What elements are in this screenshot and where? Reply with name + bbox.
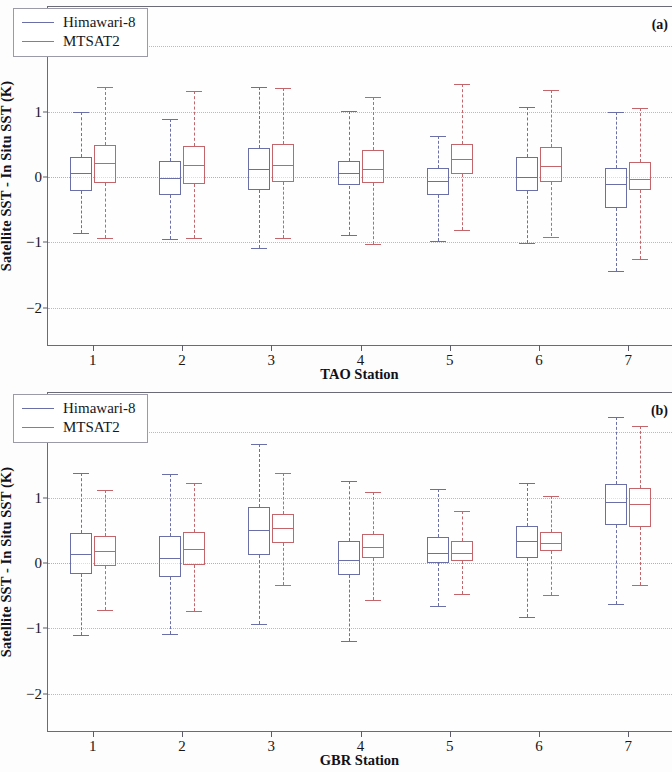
whisker-cap-upper: [519, 107, 535, 108]
box-plot-mtsat2-station-5: [451, 393, 473, 731]
whisker-cap-lower: [97, 610, 113, 611]
whisker-cap-upper: [73, 473, 89, 474]
whisker-lower: [283, 182, 284, 238]
legend-b: Himawari-8 MTSAT2: [13, 394, 148, 443]
y-tick-mark--2: [43, 693, 48, 694]
box-plot-himawari-8-station-1: [70, 393, 92, 731]
x-tick-mark-3: [271, 731, 272, 737]
median-line: [159, 558, 181, 559]
y-tick-mark--1: [43, 242, 48, 243]
legend-item-mtsat2-a: MTSAT2: [22, 32, 135, 51]
whisker-cap-upper: [275, 473, 291, 474]
whisker-lower: [194, 565, 195, 611]
x-tick-mark-4: [361, 731, 362, 737]
y-tick-label--1: −1: [26, 234, 42, 251]
box-plot-mtsat2-station-4: [362, 393, 384, 731]
whisker-upper: [194, 91, 195, 146]
box-plot-himawari-8-station-2: [159, 7, 181, 345]
box-iqr: [629, 162, 651, 190]
whisker-lower: [462, 561, 463, 594]
box-plot-mtsat2-station-5: [451, 7, 473, 345]
median-line: [362, 547, 384, 548]
gridline-y-0: [48, 563, 672, 564]
box-iqr: [362, 150, 384, 183]
box-plot-himawari-8-station-3: [248, 393, 270, 731]
box-iqr: [159, 536, 181, 577]
whisker-cap-upper: [186, 91, 202, 92]
x-axis-title-b: GBR Station: [47, 752, 672, 769]
box-iqr: [451, 541, 473, 561]
whisker-upper: [462, 511, 463, 540]
whisker-lower: [527, 191, 528, 243]
whisker-cap-lower: [454, 230, 470, 231]
box-iqr: [540, 532, 562, 551]
whisker-lower: [551, 551, 552, 595]
panel-b: Satellite SST - In Situ SST (K) (b) 210−…: [0, 386, 672, 772]
whisker-upper: [170, 119, 171, 161]
whisker-upper: [349, 481, 350, 541]
whisker-cap-lower: [251, 248, 267, 249]
legend-line-icon-mtsat2-a: [22, 41, 54, 42]
box-iqr: [272, 144, 294, 181]
whisker-cap-upper: [430, 136, 446, 137]
whisker-lower: [551, 182, 552, 237]
gridline-y--2: [48, 694, 672, 695]
box-plot-himawari-8-station-4: [338, 393, 360, 731]
whisker-upper: [551, 496, 552, 533]
whisker-cap-lower: [543, 237, 559, 238]
median-line: [629, 504, 651, 505]
plot-frame-a: (a) 210−1−21234567: [47, 6, 672, 346]
whisker-cap-upper: [73, 112, 89, 113]
box-plot-himawari-8-station-7: [605, 393, 627, 731]
whisker-lower: [259, 555, 260, 624]
whisker-cap-upper: [251, 87, 267, 88]
whisker-cap-lower: [430, 241, 446, 242]
whisker-cap-upper: [543, 496, 559, 497]
whisker-lower: [438, 195, 439, 241]
y-tick-label--2: −2: [26, 299, 42, 316]
whisker-cap-lower: [162, 239, 178, 240]
whisker-cap-upper: [632, 108, 648, 109]
whisker-upper: [259, 444, 260, 507]
box-plot-himawari-8-station-5: [427, 7, 449, 345]
gridline-y--2: [48, 308, 672, 309]
whisker-cap-lower: [543, 595, 559, 596]
panel-tag-b: (b): [651, 403, 668, 419]
whisker-cap-upper: [454, 84, 470, 85]
box-plot-mtsat2-station-3: [272, 7, 294, 345]
box-plot-himawari-8-station-3: [248, 7, 270, 345]
whisker-lower: [105, 566, 106, 610]
whisker-cap-lower: [454, 594, 470, 595]
box-iqr: [605, 484, 627, 525]
whisker-cap-upper: [365, 97, 381, 98]
box-plot-mtsat2-station-2: [183, 7, 205, 345]
whisker-cap-lower: [73, 635, 89, 636]
x-tick-mark-2: [182, 731, 183, 737]
y-axis-title-a: Satellite SST - In Situ SST (K): [0, 81, 15, 271]
x-tick-mark-7: [628, 345, 629, 351]
whisker-upper: [170, 474, 171, 535]
x-tick-mark-1: [93, 345, 94, 351]
whisker-upper: [616, 417, 617, 484]
legend-label-himawari-b: Himawari-8: [63, 400, 135, 417]
box-iqr: [540, 147, 562, 182]
box-plot-mtsat2-station-3: [272, 393, 294, 731]
box-plot-himawari-8-station-5: [427, 393, 449, 731]
whisker-lower: [259, 190, 260, 248]
median-line: [451, 553, 473, 554]
whisker-upper: [283, 473, 284, 514]
x-tick-mark-5: [450, 731, 451, 737]
median-line: [629, 179, 651, 180]
whisker-lower: [616, 208, 617, 271]
whisker-lower: [616, 525, 617, 603]
x-tick-mark-7: [628, 731, 629, 737]
whisker-upper: [105, 490, 106, 535]
legend-label-mtsat2-b: MTSAT2: [63, 419, 120, 436]
legend-a: Himawari-8 MTSAT2: [13, 8, 148, 57]
x-tick-mark-3: [271, 345, 272, 351]
whisker-lower: [170, 577, 171, 635]
gridline-y--1: [48, 242, 672, 243]
figure-boxplot-sst-comparison: Satellite SST - In Situ SST (K) (a) 210−…: [0, 0, 672, 772]
whisker-upper: [527, 107, 528, 157]
gridline-y-1: [48, 112, 672, 113]
